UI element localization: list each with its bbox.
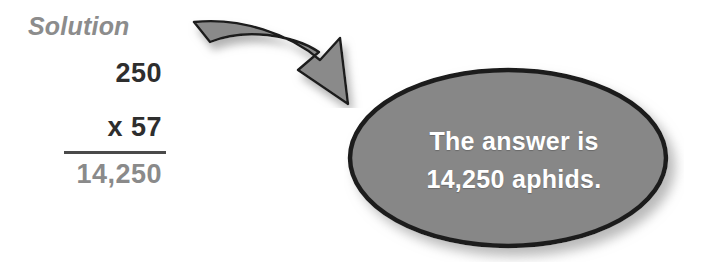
callout-ellipse-shape (344, 62, 684, 262)
product-value: 14,250 (12, 159, 162, 190)
calculation-rule (64, 151, 166, 154)
multiplier-value: x 57 (12, 112, 162, 143)
solution-block: Solution 250 x 57 14,250 (0, 0, 200, 215)
curved-arrow-icon (180, 8, 365, 108)
answer-callout: The answer is 14,250 aphids. (344, 62, 684, 262)
multiplicand-value: 250 (12, 58, 162, 89)
solution-heading: Solution (28, 12, 130, 41)
